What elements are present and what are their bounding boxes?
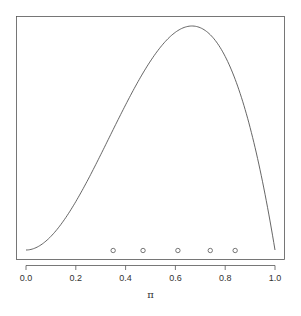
x-axis: 0.00.20.40.60.81.0	[20, 266, 282, 284]
x-tick-label: 0.6	[169, 273, 182, 283]
x-axis-title: π	[147, 289, 154, 300]
plot-frame	[17, 17, 285, 260]
x-tick-label: 0.4	[119, 273, 132, 283]
x-tick-label: 0.2	[70, 273, 83, 283]
observation-points	[111, 248, 237, 252]
density-curve	[26, 26, 275, 250]
observation-point	[208, 248, 212, 252]
x-tick-label: 1.0	[269, 273, 282, 283]
density-plot: 0.00.20.40.60.81.0 π	[0, 0, 301, 316]
x-tick-label: 0.0	[20, 273, 33, 283]
observation-point	[233, 248, 237, 252]
observation-point	[111, 248, 115, 252]
observation-point	[141, 248, 145, 252]
x-tick-label: 0.8	[219, 273, 232, 283]
observation-point	[176, 248, 180, 252]
